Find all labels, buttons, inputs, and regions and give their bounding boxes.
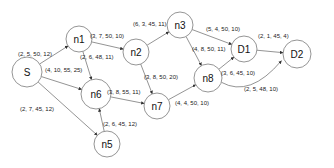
edge-label: (3, 8, 50, 20) bbox=[144, 74, 178, 80]
node-D1: D1 bbox=[231, 36, 257, 62]
network-diagram: Sn1n2n3D1D2n8n7n6n5 (2, 5, 50, 12)(4, 10… bbox=[0, 0, 334, 168]
edge-label: (2, 6, 48, 11) bbox=[80, 54, 114, 60]
node-label: D2 bbox=[291, 49, 304, 60]
edge-arrow bbox=[257, 50, 283, 52]
edge-arrow bbox=[147, 32, 169, 45]
edge-arrow bbox=[99, 109, 104, 132]
edge-label: (4, 8, 50, 11) bbox=[192, 46, 226, 52]
edge-label: (6, 3, 45, 11) bbox=[133, 21, 167, 27]
node-label: n1 bbox=[73, 34, 85, 45]
edge-arrow bbox=[219, 57, 234, 69]
node-n2: n2 bbox=[123, 39, 149, 65]
node-label: n6 bbox=[90, 89, 102, 100]
edge-label: (3, 6, 45, 10) bbox=[221, 70, 255, 76]
edge-n2-n3 bbox=[147, 32, 169, 45]
edge-n7-n8 bbox=[168, 85, 195, 100]
node-n8: n8 bbox=[194, 64, 222, 92]
edge-label: (3, 8, 55, 11) bbox=[107, 89, 141, 95]
node-D2: D2 bbox=[283, 40, 311, 68]
edge-label: (3, 7, 50, 10) bbox=[90, 33, 124, 39]
edge-arrow bbox=[111, 97, 145, 104]
edge-n1-n2 bbox=[92, 42, 124, 49]
node-label: n5 bbox=[101, 139, 113, 150]
node-label: n3 bbox=[174, 20, 186, 31]
edge-n5-n6 bbox=[99, 109, 104, 132]
edge-label: (2, 6, 45, 12) bbox=[103, 121, 137, 127]
edge-label: (2, 5, 48, 10) bbox=[244, 86, 278, 92]
node-label: n2 bbox=[130, 47, 142, 58]
node-label: S bbox=[24, 67, 31, 78]
node-label: n7 bbox=[151, 101, 163, 112]
edge-arrow bbox=[168, 85, 195, 100]
node-n1: n1 bbox=[66, 26, 92, 52]
node-n3: n3 bbox=[167, 12, 193, 38]
edge-D1-D2 bbox=[257, 50, 283, 52]
edge-S-n6 bbox=[41, 77, 81, 90]
edge-n6-n7 bbox=[111, 97, 145, 104]
node-label: D1 bbox=[238, 44, 251, 55]
edge-label: (4, 4, 50, 10) bbox=[175, 100, 209, 106]
edge-label: (4, 10, 55, 25) bbox=[45, 67, 82, 73]
node-n5: n5 bbox=[94, 131, 120, 157]
edge-label: (2, 1, 45, 4) bbox=[258, 33, 289, 39]
edge-n8-D1 bbox=[219, 57, 234, 69]
node-label: n8 bbox=[202, 73, 214, 84]
edge-arrow bbox=[92, 42, 124, 49]
node-S: S bbox=[12, 57, 42, 87]
edge-label: (2, 7, 45, 12) bbox=[20, 106, 54, 112]
node-n7: n7 bbox=[144, 93, 170, 119]
edge-label: (2, 5, 50, 12) bbox=[18, 51, 52, 57]
edge-arrow bbox=[41, 77, 81, 90]
edge-label: (5, 4, 50, 10) bbox=[206, 26, 240, 32]
